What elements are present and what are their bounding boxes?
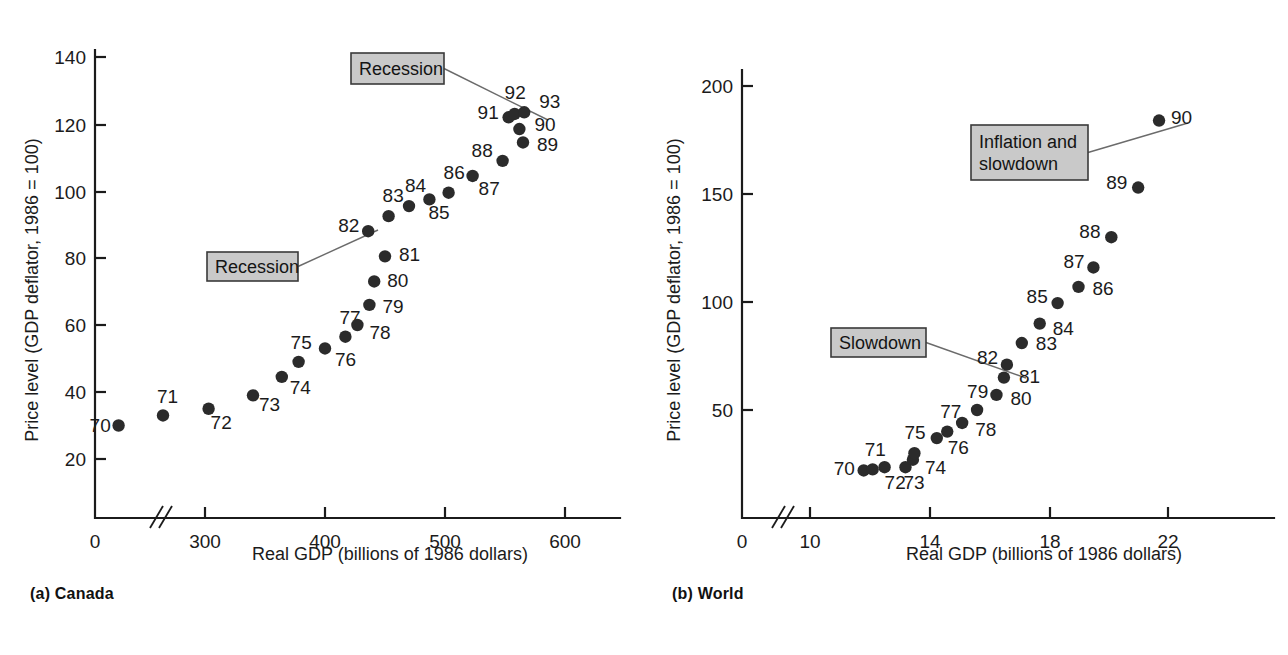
data-point-label-85: 85 — [428, 202, 449, 223]
data-point-label-86: 86 — [1093, 278, 1114, 299]
data-point-87[interactable] — [466, 170, 478, 182]
data-point-label-73: 73 — [903, 472, 924, 493]
y-tick-label-60: 60 — [65, 315, 86, 336]
data-point-74[interactable] — [276, 371, 288, 383]
data-point-label-87: 87 — [1063, 251, 1084, 272]
x-tick-label-300: 300 — [189, 531, 221, 552]
y-axis-ticks: 50100150200 — [701, 76, 753, 421]
data-point-label-88: 88 — [1079, 221, 1100, 242]
annotation-callout-1[interactable]: Recession — [351, 53, 444, 84]
y-tick-label-140: 140 — [54, 47, 86, 68]
data-point-label-84: 84 — [405, 175, 427, 196]
data-point-label-89: 89 — [537, 134, 558, 155]
data-point-83[interactable] — [382, 210, 394, 222]
data-point-84[interactable] — [403, 200, 415, 212]
annotation-text-1-0: Recession — [359, 59, 443, 79]
data-point-71[interactable] — [157, 409, 169, 421]
data-point-label-91: 91 — [478, 102, 499, 123]
annotation-callout-1[interactable]: Inflation andslowdown — [971, 125, 1088, 180]
scatter-plot-world: 01014182250100150200Price level (GDP def… — [644, 0, 1288, 655]
annotation-callout-0[interactable]: Slowdown — [831, 328, 926, 357]
data-point-label-80: 80 — [1010, 388, 1031, 409]
panel-caption-world: (b) World — [672, 585, 744, 603]
data-point-label-92: 92 — [505, 82, 526, 103]
data-point-label-70: 70 — [90, 415, 111, 436]
data-point-label-72: 72 — [211, 412, 232, 433]
data-point-label-90: 90 — [534, 114, 555, 135]
data-point-label-82: 82 — [338, 215, 359, 236]
annotation-text-0-0: Slowdown — [839, 333, 921, 353]
data-point-89[interactable] — [1132, 181, 1144, 193]
y-axis-title: Price level (GDP deflator, 1986 = 100) — [22, 138, 42, 441]
data-point-78[interactable] — [351, 319, 363, 331]
annotation-text-0-0: Recession — [215, 257, 299, 277]
data-point-85[interactable] — [1051, 297, 1063, 309]
y-tick-label-120: 120 — [54, 115, 86, 136]
data-point-label-75: 75 — [904, 422, 925, 443]
figure-root: 030040050060020406080100120140Price leve… — [0, 0, 1288, 655]
data-point-84[interactable] — [1034, 317, 1046, 329]
data-point-76[interactable] — [931, 432, 943, 444]
data-point-73[interactable] — [247, 389, 259, 401]
data-point-label-88: 88 — [472, 140, 493, 161]
y-tick-label-80: 80 — [65, 248, 86, 269]
data-point-label-81: 81 — [1019, 366, 1040, 387]
data-point-88[interactable] — [496, 155, 508, 167]
data-point-77[interactable] — [339, 331, 351, 343]
data-point-90[interactable] — [513, 123, 525, 135]
x-tick-label-0: 0 — [737, 531, 748, 552]
data-point-label-87: 87 — [479, 178, 500, 199]
data-point-93[interactable] — [518, 106, 530, 118]
data-point-label-89: 89 — [1106, 172, 1127, 193]
data-point-79[interactable] — [971, 404, 983, 416]
chart-panel-canada: 030040050060020406080100120140Price leve… — [0, 0, 644, 655]
data-point-87[interactable] — [1087, 261, 1099, 273]
data-point-77[interactable] — [941, 425, 953, 437]
y-tick-label-40: 40 — [65, 382, 86, 403]
data-point-label-70: 70 — [834, 458, 855, 479]
data-point-90[interactable] — [1153, 114, 1165, 126]
data-point-79[interactable] — [363, 299, 375, 311]
x-axis-title: Real GDP (billions of 1986 dollars) — [252, 544, 528, 564]
data-point-76[interactable] — [319, 342, 331, 354]
data-point-label-80: 80 — [387, 270, 408, 291]
data-point-label-71: 71 — [865, 439, 886, 460]
data-point-80[interactable] — [990, 389, 1002, 401]
data-point-label-93: 93 — [539, 91, 560, 112]
data-point-83[interactable] — [1016, 337, 1028, 349]
data-point-75[interactable] — [292, 356, 304, 368]
y-tick-label-20: 20 — [65, 449, 86, 470]
data-point-label-76: 76 — [948, 437, 969, 458]
data-point-71[interactable] — [866, 463, 878, 475]
data-point-label-76: 76 — [335, 349, 356, 370]
data-point-label-83: 83 — [383, 185, 404, 206]
x-tick-label-600: 600 — [549, 531, 581, 552]
data-point-label-74: 74 — [925, 457, 947, 478]
data-point-81[interactable] — [998, 371, 1010, 383]
data-point-78[interactable] — [956, 417, 968, 429]
x-tick-label-0: 0 — [90, 531, 101, 552]
data-point-label-86: 86 — [444, 162, 465, 183]
chart-panel-world: 01014182250100150200Price level (GDP def… — [644, 0, 1288, 655]
y-tick-label-100: 100 — [701, 292, 733, 313]
data-point-80[interactable] — [368, 275, 380, 287]
data-point-label-82: 82 — [977, 347, 998, 368]
data-point-86[interactable] — [1072, 281, 1084, 293]
data-point-89[interactable] — [517, 136, 529, 148]
data-point-81[interactable] — [379, 250, 391, 262]
data-point-88[interactable] — [1105, 231, 1117, 243]
scatter-plot-canada: 030040050060020406080100120140Price leve… — [0, 0, 644, 655]
data-point-82[interactable] — [362, 225, 374, 237]
data-point-label-71: 71 — [157, 386, 178, 407]
data-point-label-79: 79 — [967, 381, 988, 402]
data-point-label-90: 90 — [1171, 107, 1192, 128]
data-point-82[interactable] — [1001, 358, 1013, 370]
y-tick-label-150: 150 — [701, 184, 733, 205]
data-point-70[interactable] — [112, 419, 124, 431]
data-point-86[interactable] — [442, 186, 454, 198]
data-point-label-79: 79 — [382, 296, 403, 317]
data-point-label-78: 78 — [369, 322, 390, 343]
data-point-label-85: 85 — [1027, 286, 1048, 307]
annotation-callout-0[interactable]: Recession — [207, 252, 299, 281]
data-point-75[interactable] — [908, 447, 920, 459]
